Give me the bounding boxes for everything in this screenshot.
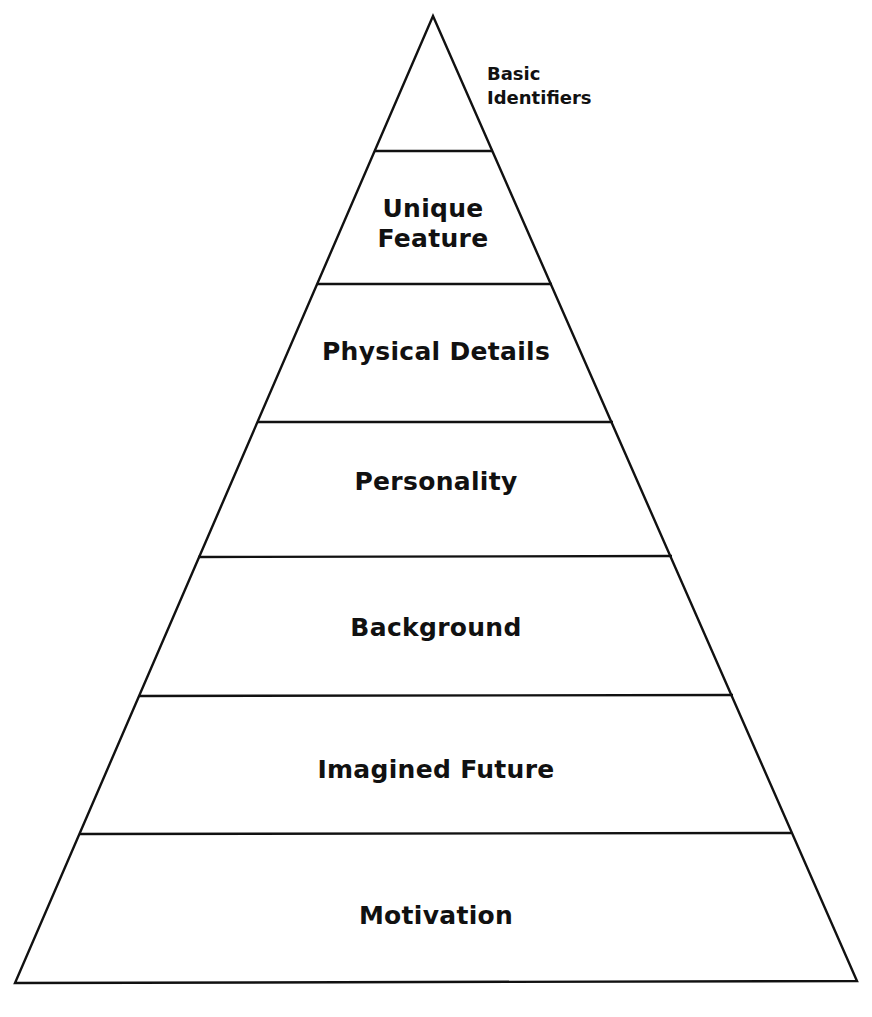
pyramid-diagram	[0, 0, 872, 1017]
apex-label-line-2: Identifiers	[487, 86, 592, 110]
level-label-imagined-future: Imagined Future	[286, 757, 586, 782]
divider-background-future	[139, 695, 733, 696]
level-4-line-1: Background	[286, 615, 586, 640]
apex-label-basic-identifiers: Basic Identifiers	[487, 62, 592, 110]
level-6-line-1: Motivation	[286, 903, 586, 928]
level-1-line-1: Unique	[333, 194, 533, 224]
level-label-background: Background	[286, 615, 586, 640]
divider-personality-background	[198, 556, 672, 557]
level-3-line-1: Personality	[286, 469, 586, 494]
level-label-physical-details: Physical Details	[286, 339, 586, 364]
divider-future-motivation	[79, 833, 791, 834]
level-label-motivation: Motivation	[286, 903, 586, 928]
level-1-line-2: Feature	[333, 224, 533, 254]
level-label-unique-feature: Unique Feature	[333, 194, 533, 254]
level-2-line-1: Physical Details	[286, 339, 586, 364]
apex-label-line-1: Basic	[487, 62, 592, 86]
pyramid-outline	[15, 16, 857, 983]
level-5-line-1: Imagined Future	[286, 757, 586, 782]
level-label-personality: Personality	[286, 469, 586, 494]
